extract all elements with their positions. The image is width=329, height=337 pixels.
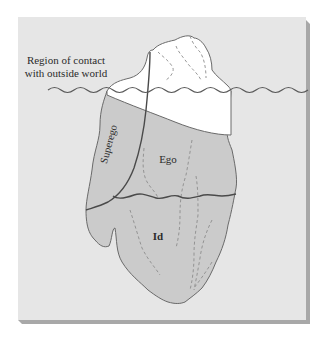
id-label: Id bbox=[153, 230, 163, 242]
contact-label-line1: Region of contact bbox=[27, 54, 105, 66]
iceberg-diagram: Region of contact with outside world Sup… bbox=[0, 0, 329, 337]
ego-label: Ego bbox=[159, 153, 177, 165]
contact-label-line2: with outside world bbox=[25, 67, 108, 79]
